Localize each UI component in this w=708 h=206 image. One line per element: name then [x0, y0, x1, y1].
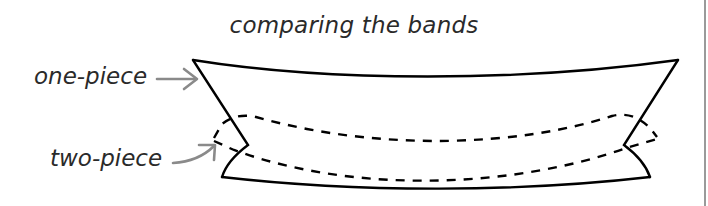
diagram-drawing: [0, 0, 708, 206]
one-piece-bottom-edge: [222, 177, 650, 189]
two-piece-arrow: [173, 145, 215, 163]
diagram-canvas: comparing the bands one-piece two-piece: [0, 0, 708, 206]
one-piece-left-edge: [193, 60, 248, 177]
one-piece-top-edge: [193, 60, 678, 77]
two-piece-upper-edge: [214, 115, 657, 141]
one-piece-right-edge: [624, 60, 678, 177]
two-piece-lower-edge: [214, 139, 657, 181]
one-piece-band-outline: [193, 60, 678, 189]
right-border-rule: [704, 0, 706, 206]
two-piece-band-outline: [214, 115, 657, 181]
one-piece-arrow: [157, 69, 197, 89]
